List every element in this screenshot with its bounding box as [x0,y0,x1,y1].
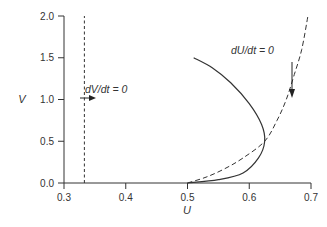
x-tick-label: 0.5 [181,192,195,203]
arrow-down-icon [289,89,295,98]
y-axis: 0.00.51.01.52.0 [40,11,64,189]
x-tick-label: 0.3 [57,192,71,203]
x-axis-label: U [183,204,191,216]
x-tick-label: 0.4 [119,192,133,203]
y-tick-label: 2.0 [40,11,54,22]
annotation-dudt-label: dU/dt = 0 [231,44,274,56]
annotation-dvdt-label: dV/dt = 0 [85,83,127,95]
x-axis: 0.30.40.50.60.7 [57,183,318,203]
y-tick-label: 0.5 [40,136,54,147]
y-tick-label: 1.0 [40,94,54,105]
y-axis-label: V [18,93,27,105]
annotation-dudt: dU/dt = 0 [231,44,295,98]
x-tick-label: 0.6 [242,192,256,203]
phase-plane-chart: 0.00.51.01.52.0 0.30.40.50.60.7 U V dV/d… [0,0,327,227]
annotation-dvdt: dV/dt = 0 [80,83,127,101]
x-tick-label: 0.7 [304,192,318,203]
y-tick-label: 1.5 [40,52,54,63]
y-tick-label: 0.0 [40,178,54,189]
series-layer [84,16,308,183]
series-trajectory [188,58,265,183]
series-du-dt-0 [188,16,308,183]
arrow-right-icon [89,95,96,101]
